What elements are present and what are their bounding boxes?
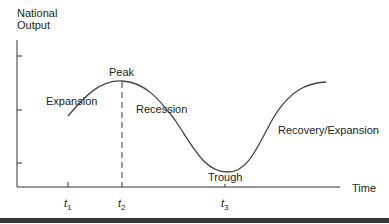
business-cycle-diagram <box>0 0 389 224</box>
expansion-label: Expansion <box>46 95 97 107</box>
tick-t3: t3 <box>221 197 229 212</box>
recession-label: Recession <box>136 103 187 115</box>
trough-label: Trough <box>208 171 242 183</box>
tick-t1: t1 <box>64 197 72 212</box>
peak-label: Peak <box>109 66 134 78</box>
tick-t2: t2 <box>118 197 126 212</box>
x-axis-label: Time <box>352 182 376 194</box>
y-axis-label: National Output <box>17 7 57 31</box>
recovery-label: Recovery/Expansion <box>278 124 379 136</box>
